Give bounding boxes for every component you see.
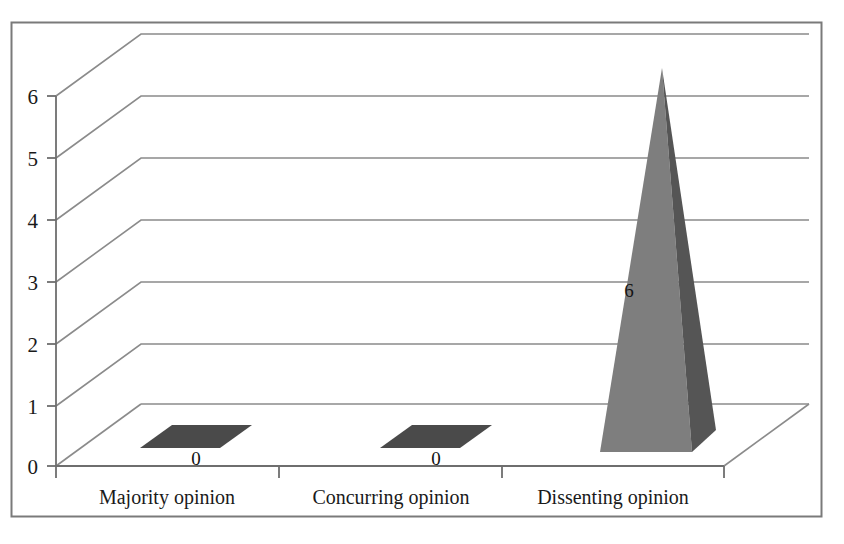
x-category-label-2: Dissenting opinion bbox=[537, 486, 689, 509]
data-label-majority: 0 bbox=[191, 448, 201, 469]
y-tick-label-5: 5 bbox=[28, 147, 39, 171]
y-tick-label-1: 1 bbox=[28, 395, 39, 419]
y-tick-label-6: 6 bbox=[28, 85, 39, 109]
x-category-label-0: Majority opinion bbox=[99, 486, 235, 509]
data-label-concurring: 0 bbox=[431, 448, 441, 469]
chart-figure: 6 5 4 3 2 1 0 bbox=[0, 0, 844, 544]
data-label-dissenting: 6 bbox=[624, 280, 634, 301]
chart-canvas: 6 5 4 3 2 1 0 bbox=[0, 0, 844, 544]
y-tick-label-3: 3 bbox=[28, 271, 39, 295]
y-tick-label-4: 4 bbox=[28, 209, 39, 233]
y-tick-label-2: 2 bbox=[28, 333, 39, 357]
x-category-label-1: Concurring opinion bbox=[312, 486, 469, 509]
y-tick-label-0: 0 bbox=[28, 455, 39, 479]
